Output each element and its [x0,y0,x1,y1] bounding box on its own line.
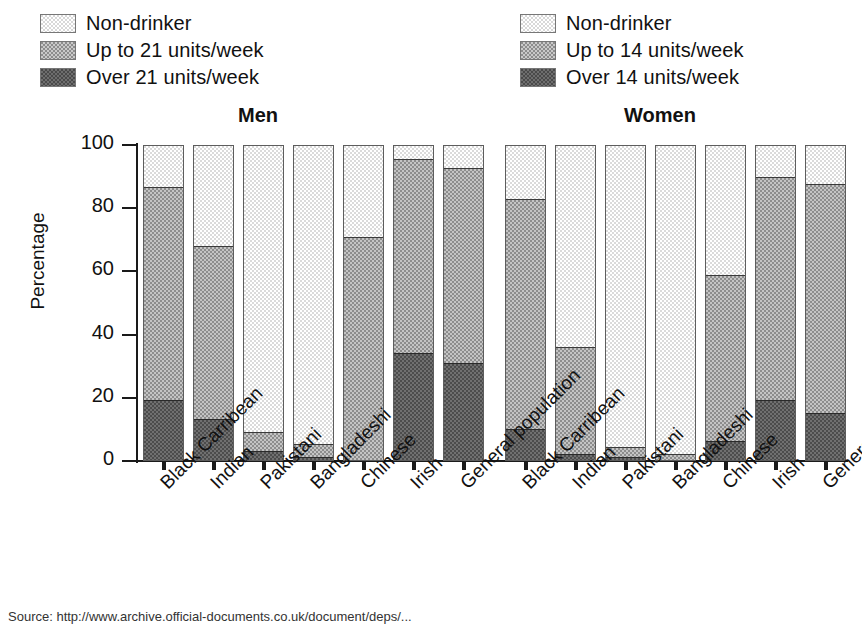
legend-label: Non-drinker [566,12,672,35]
source-note: Source: http://www.archive.official-docu… [8,609,412,624]
bar-segment[interactable] [444,363,483,460]
bar-men-6[interactable] [443,145,484,461]
legend-row: Up to 21 units/week [40,37,264,64]
bar-segment[interactable] [394,146,433,159]
bar-segment[interactable] [144,146,183,187]
legend-men: Non-drinker Up to 21 units/week Over 21 … [40,10,264,91]
y-axis-tick [122,397,137,399]
bar-segment[interactable] [806,413,845,460]
bar-segment[interactable] [394,159,433,354]
legend-row: Over 21 units/week [40,64,264,91]
legend-label: Non-drinker [86,12,192,35]
y-axis-tick [122,460,137,462]
y-axis-tick-label: 100 [58,131,114,154]
legend-swatch-up-to-icon [40,41,76,60]
bar-segment[interactable] [194,146,233,246]
bar-segment[interactable] [756,177,795,400]
legend-swatch-over-icon [40,68,76,87]
y-axis-tick-label: 20 [58,384,114,407]
y-axis-tick [122,270,137,272]
bar-women-6[interactable] [805,145,846,461]
bar-women-5[interactable] [755,145,796,461]
bar-segment[interactable] [806,146,845,184]
legend-label: Over 14 units/week [566,66,739,89]
legend-label: Up to 21 units/week [86,39,264,62]
y-axis-tick-label: 0 [58,447,114,470]
legend-swatch-non-drinker-icon [520,14,556,33]
bar-segment[interactable] [656,146,695,454]
bar-men-0[interactable] [143,145,184,461]
bar-segment[interactable] [144,400,183,460]
legend-swatch-up-to-icon [520,41,556,60]
y-axis-tick-label: 60 [58,257,114,280]
panel-title-women: Women [560,104,760,127]
y-axis-tick [122,144,137,146]
bar-segment[interactable] [344,146,383,237]
panel-title-men: Men [158,104,358,127]
bar-segment[interactable] [756,146,795,177]
bar-segment[interactable] [556,146,595,347]
bar-segment[interactable] [444,146,483,168]
legend-label: Up to 14 units/week [566,39,744,62]
legend-row: Over 14 units/week [520,64,744,91]
legend-row: Non-drinker [40,10,264,37]
bar-men-5[interactable] [393,145,434,461]
legend-label: Over 21 units/week [86,66,259,89]
y-axis-tick-label: 40 [58,321,114,344]
y-axis-tick [122,334,137,336]
y-axis-tick-label: 80 [58,194,114,217]
legend-women: Non-drinker Up to 14 units/week Over 14 … [520,10,744,91]
bar-segment[interactable] [194,246,233,419]
bar-segment[interactable] [706,146,745,275]
bar-segment[interactable] [144,187,183,401]
legend-swatch-non-drinker-icon [40,14,76,33]
legend-row: Non-drinker [520,10,744,37]
bar-segment[interactable] [444,168,483,363]
y-axis-tick [122,207,137,209]
legend-row: Up to 14 units/week [520,37,744,64]
bar-segment[interactable] [806,184,845,413]
bar-segment[interactable] [506,146,545,199]
bar-men-3[interactable] [293,145,334,461]
legend-swatch-over-icon [520,68,556,87]
bar-women-3[interactable] [655,145,696,461]
y-axis-title: Percentage [27,171,49,351]
bar-segment[interactable] [294,146,333,444]
